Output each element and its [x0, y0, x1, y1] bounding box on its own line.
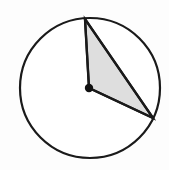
center-point-dot — [85, 84, 93, 92]
circle-diagram-svg — [0, 0, 169, 170]
figure-canvas — [0, 0, 169, 170]
